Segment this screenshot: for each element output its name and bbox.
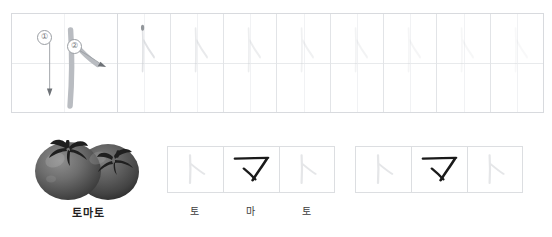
word-cell-wrap: 마	[223, 146, 279, 218]
practice-cell[interactable]	[437, 14, 490, 112]
word-cell-wrap	[355, 146, 411, 203]
word-cell[interactable]	[223, 146, 279, 193]
stroke-practice-grid: ① ②	[11, 13, 544, 113]
word-practice-section: 토마토 토 마 토	[0, 132, 552, 237]
practice-cell[interactable]	[277, 14, 330, 112]
practice-cell[interactable]	[118, 14, 171, 112]
word-trace-group-2	[355, 146, 523, 203]
word-cell-label: 마	[223, 203, 279, 218]
practice-cell[interactable]	[171, 14, 224, 112]
word-trace-group-1: 토 마 토	[167, 146, 335, 218]
practice-cell[interactable]	[491, 14, 543, 112]
guide-letter-a	[171, 14, 223, 112]
word-cell[interactable]	[167, 146, 223, 193]
guide-letter-a	[331, 14, 383, 112]
word-cell-label: 토	[279, 203, 335, 218]
tomato-icon	[24, 134, 152, 202]
word-cell[interactable]	[355, 146, 411, 193]
practice-cell[interactable]	[224, 14, 277, 112]
word-glyph	[412, 147, 467, 192]
word-glyph	[168, 147, 223, 192]
word-glyph	[356, 147, 411, 192]
word-glyph	[468, 147, 522, 192]
guide-letter-a	[384, 14, 436, 112]
guide-letter-a	[224, 14, 276, 112]
word-cell-wrap: 토	[279, 146, 335, 218]
word-cell-wrap	[411, 146, 467, 203]
stroke-order-badge-1: ①	[37, 30, 52, 45]
word-glyph	[280, 147, 334, 192]
practice-cell[interactable]	[384, 14, 437, 112]
word-glyph	[224, 147, 279, 192]
word-cell-wrap	[467, 146, 523, 203]
word-cell[interactable]	[467, 146, 523, 193]
guide-letter-a	[437, 14, 489, 112]
vocabulary-picture-block: 토마토	[18, 132, 158, 237]
demo-glyph	[12, 14, 117, 112]
word-cell-wrap: 토	[167, 146, 223, 218]
practice-cell[interactable]	[331, 14, 384, 112]
word-cell[interactable]	[411, 146, 467, 193]
stroke-order-demo-cell[interactable]: ① ②	[12, 14, 118, 112]
guide-letter-a	[118, 14, 170, 112]
vocabulary-word-caption: 토마토	[18, 204, 158, 220]
word-cell-label: 토	[167, 203, 223, 218]
guide-letter-a	[491, 14, 543, 112]
word-cell[interactable]	[279, 146, 335, 193]
guide-letter-a	[277, 14, 329, 112]
